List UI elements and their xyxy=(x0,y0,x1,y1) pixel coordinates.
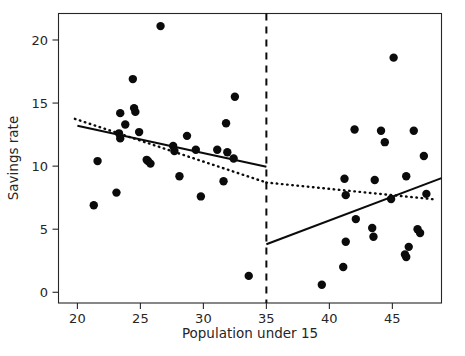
scatter-point xyxy=(131,108,139,116)
scatter-point xyxy=(222,119,230,127)
scatter-point xyxy=(223,148,231,156)
scatter-point xyxy=(420,152,428,160)
scatter-plot-figure: 05101520 202530354045 Population under 1… xyxy=(0,0,465,356)
scatter-point xyxy=(352,215,360,223)
scatter-point xyxy=(318,281,326,289)
x-tick-label: 40 xyxy=(321,311,338,326)
y-tick-label: 10 xyxy=(31,159,48,174)
scatter-point xyxy=(369,233,377,241)
y-axis-title: Savings rate xyxy=(5,116,21,200)
y-tick-label: 15 xyxy=(31,96,48,111)
scatter-point xyxy=(342,238,350,246)
scatter-point xyxy=(377,127,385,135)
scatter-point xyxy=(350,125,358,133)
scatter-point xyxy=(93,157,101,165)
x-tick-label: 45 xyxy=(384,311,401,326)
scatter-point xyxy=(387,195,395,203)
scatter-point xyxy=(129,75,137,83)
scatter-point xyxy=(116,109,124,117)
scatter-point xyxy=(416,229,424,237)
scatter-point xyxy=(340,175,348,183)
scatter-point xyxy=(183,132,191,140)
scatter-point xyxy=(422,190,430,198)
x-tick-label: 30 xyxy=(195,311,212,326)
x-tick-label: 20 xyxy=(69,311,86,326)
x-tick-label: 35 xyxy=(258,311,275,326)
scatter-point xyxy=(368,224,376,232)
scatter-point xyxy=(405,243,413,251)
scatter-point xyxy=(371,176,379,184)
scatter-point xyxy=(410,127,418,135)
scatter-point xyxy=(146,159,154,167)
scatter-point xyxy=(339,263,347,271)
y-tick-label: 20 xyxy=(31,33,48,48)
scatter-point xyxy=(402,172,410,180)
scatter-point xyxy=(229,154,237,162)
scatter-point xyxy=(170,147,178,155)
scatter-point xyxy=(135,128,143,136)
scatter-point xyxy=(402,253,410,261)
scatter-point xyxy=(219,177,227,185)
scatter-point xyxy=(116,134,124,142)
scatter-point xyxy=(197,192,205,200)
y-tick-label: 5 xyxy=(40,222,48,237)
scatter-point xyxy=(231,93,239,101)
x-tick-label: 25 xyxy=(132,311,149,326)
x-axis-title: Population under 15 xyxy=(182,325,318,341)
scatter-point xyxy=(112,188,120,196)
scatter-point xyxy=(389,53,397,61)
scatter-point xyxy=(342,191,350,199)
scatter-point xyxy=(175,172,183,180)
scatter-point xyxy=(90,201,98,209)
scatter-point xyxy=(192,146,200,154)
plot-canvas: 05101520 202530354045 Population under 1… xyxy=(0,0,465,356)
y-tick-label: 0 xyxy=(40,285,48,300)
scatter-point xyxy=(245,272,253,280)
scatter-point xyxy=(156,22,164,30)
scatter-point xyxy=(121,120,129,128)
scatter-point xyxy=(381,138,389,146)
scatter-point xyxy=(213,146,221,154)
